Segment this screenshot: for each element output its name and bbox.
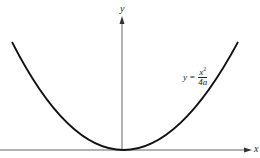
- parabola-diagram: [0, 0, 260, 158]
- y-axis-label: y: [120, 4, 124, 14]
- y-axis-arrow-icon: [120, 16, 125, 24]
- equation-label: y = x2 4a: [183, 66, 207, 88]
- x-axis-label: x: [254, 144, 258, 154]
- x-axis-arrow-icon: [244, 148, 252, 153]
- equation-denominator: 4a: [198, 78, 207, 88]
- parabola-curve: [12, 42, 238, 150]
- equation-fraction: x2 4a: [198, 66, 207, 88]
- equation-lhs: y =: [183, 72, 195, 82]
- numerator-exponent: 2: [203, 66, 206, 72]
